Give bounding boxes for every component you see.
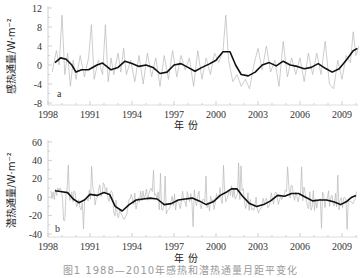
figure: 12840-4-8 199819911994199720002003200620…	[0, 0, 361, 278]
y-tick-label: 0	[37, 192, 42, 203]
y-tick-label: 0	[37, 60, 42, 71]
panel-a: 12840-4-8 199819911994199720002003200620…	[5, 3, 359, 132]
x-tick-label: 2009	[332, 241, 352, 252]
panel-b-x-ticks: 19981991199419972000200320062009	[38, 233, 356, 252]
y-tick-label: -20	[29, 210, 42, 221]
y-tick-label: 60	[32, 137, 42, 148]
y-tick-label: 4	[37, 41, 42, 52]
y-tick-label: -4	[34, 79, 42, 90]
panel-b: 6040200-20-40 19981991199419972000200320…	[5, 137, 358, 265]
x-tick-label: 1997	[164, 241, 184, 252]
panel-a-tag: a	[57, 88, 62, 99]
monthly-line	[52, 15, 359, 89]
x-tick-label: 2006	[290, 109, 310, 120]
figure-caption: 图1 1988—2010年感热和潜热通量月距平变化	[0, 262, 361, 277]
x-tick-label: 1998	[38, 109, 58, 120]
x-tick-label: 2006	[290, 241, 310, 252]
y-tick-label: 40	[32, 155, 42, 166]
y-tick-label: -8	[34, 98, 42, 109]
y-tick-label: 8	[37, 22, 42, 33]
y-tick-label: 12	[32, 3, 42, 14]
panel-b-tag: b	[55, 223, 60, 234]
panel-a-y-axis-title: 感热通量/W·m⁻²	[5, 18, 17, 93]
panel-a-y-ticks: 12840-4-8	[32, 3, 52, 109]
panel-b-y-axis-title: 潜热通量/W·m⁻²	[5, 152, 17, 227]
panel-a-x-ticks: 19981991199419972000200320062009	[38, 101, 356, 120]
x-tick-label: 1994	[122, 241, 142, 252]
x-tick-label: 2009	[332, 109, 352, 120]
panel-a-monthly-series	[52, 15, 359, 89]
x-tick-label: 1991	[80, 109, 100, 120]
x-tick-label: 1991	[80, 241, 100, 252]
x-tick-label: 2003	[248, 241, 268, 252]
panel-a-x-axis-title: 年 份	[174, 119, 197, 131]
y-tick-label: -40	[29, 229, 42, 240]
x-tick-label: 2000	[206, 109, 226, 120]
y-tick-label: 20	[32, 173, 42, 184]
x-tick-label: 1997	[164, 109, 184, 120]
x-tick-label: 1998	[38, 241, 58, 252]
x-tick-label: 1994	[122, 109, 142, 120]
x-tick-label: 2000	[206, 241, 226, 252]
x-tick-label: 2003	[248, 109, 268, 120]
